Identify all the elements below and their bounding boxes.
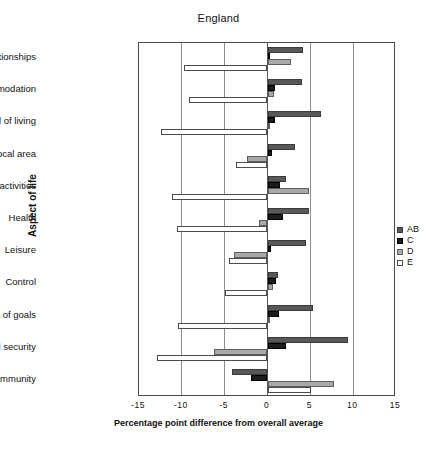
chart-row <box>139 236 394 268</box>
bar-c-future-financial-security <box>268 343 287 349</box>
legend-label-e: E <box>407 258 413 267</box>
x-tick-neg5: -5 <box>219 400 228 410</box>
bar-ab-relationships <box>268 47 304 53</box>
bar-d-achievement-of-goals <box>268 317 270 323</box>
bar-ab-standard-of-living <box>268 111 322 117</box>
bar-e-accommodation <box>189 97 268 103</box>
y-axis-label-day-to-day-activities: Day to day activities <box>0 180 36 191</box>
plot-area <box>138 42 395 396</box>
bar-e-day-to-day-activities <box>172 194 267 200</box>
chart-row <box>139 300 394 332</box>
y-axis-label-standard-of-living: Standard of living <box>0 115 36 126</box>
legend-item-d[interactable]: D <box>397 246 419 257</box>
chart-row <box>139 333 394 365</box>
bar-e-control <box>225 290 268 296</box>
bar-e-achievement-of-goals <box>178 323 267 329</box>
chart-row <box>139 172 394 204</box>
bar-c-leisure <box>268 246 271 252</box>
x-tick-0: 0 <box>264 400 269 410</box>
chart-row <box>139 107 394 139</box>
chart-row <box>139 204 394 236</box>
y-axis-label-control: Control <box>0 276 36 287</box>
y-axis-label-accommodation: Accommodation <box>0 83 36 94</box>
bar-e-community <box>268 387 312 393</box>
y-axis-label-local-area: Local area <box>0 148 36 159</box>
legend-swatch-e-icon <box>397 260 403 266</box>
bar-e-standard-of-living <box>161 129 267 135</box>
legend-swatch-ab-icon <box>397 227 403 233</box>
bar-ab-leisure <box>268 240 307 246</box>
bar-d-relationships <box>268 59 291 65</box>
y-axis-label-leisure: Leisure <box>0 244 36 255</box>
chart-row <box>139 140 394 172</box>
chart-row <box>139 75 394 107</box>
legend-item-ab[interactable]: AB <box>397 224 419 235</box>
legend-swatch-d-icon <box>397 249 403 255</box>
legend-label-ab: AB <box>407 225 419 234</box>
chart-root: England Aspect of life RelationshipsAcco… <box>0 0 437 464</box>
chart-legend: ABCDE <box>397 224 419 268</box>
x-tick-15: 15 <box>390 400 400 410</box>
bar-c-health <box>268 214 283 220</box>
bar-e-leisure <box>229 258 268 264</box>
bar-e-relationships <box>184 65 268 71</box>
y-axis-label-future-financial-security: Future financial security <box>0 341 36 352</box>
legend-label-c: C <box>407 236 414 245</box>
x-tick-5: 5 <box>307 400 312 410</box>
x-axis-title: Percentage point difference from overall… <box>0 418 437 428</box>
x-tick-neg15: -15 <box>131 400 145 410</box>
legend-item-e[interactable]: E <box>397 257 419 268</box>
bar-d-accommodation <box>268 91 275 97</box>
bar-d-day-to-day-activities <box>268 188 309 194</box>
bar-e-health <box>177 226 268 232</box>
x-tick-neg10: -10 <box>174 400 188 410</box>
bar-e-future-financial-security <box>157 355 268 361</box>
bar-d-control <box>268 284 273 290</box>
chart-row <box>139 268 394 300</box>
legend-label-d: D <box>407 247 414 256</box>
y-axis-label-community: Community <box>0 373 36 384</box>
bar-c-local-area <box>268 150 272 156</box>
chart-row <box>139 365 394 397</box>
y-axis-label-relationships: Relationships <box>0 51 36 62</box>
chart-row <box>139 43 394 75</box>
bar-e-local-area <box>236 162 268 168</box>
legend-item-c[interactable]: C <box>397 235 419 246</box>
y-axis-label-achievement-of-goals: Achievement of goals <box>0 309 36 320</box>
y-axis-label-health: Health <box>0 212 36 223</box>
bar-c-community <box>251 375 267 381</box>
legend-swatch-c-icon <box>397 238 403 244</box>
bar-d-standard-of-living <box>268 123 270 129</box>
chart-title: England <box>0 12 437 24</box>
x-tick-10: 10 <box>347 400 357 410</box>
